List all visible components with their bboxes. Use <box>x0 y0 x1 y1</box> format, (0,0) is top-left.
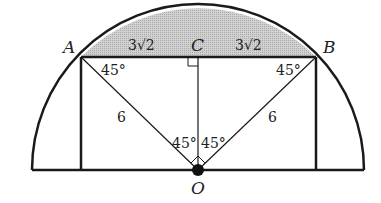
diagram-canvas: A B C O 3√2 3√2 6 6 45° 45° 45° 45° <box>0 0 381 203</box>
label-ac: 3√2 <box>128 37 155 53</box>
label-a: A <box>61 37 75 57</box>
radius-oa <box>81 57 198 170</box>
label-o: O <box>191 178 205 198</box>
angle-a: 45° <box>101 62 126 78</box>
label-b: B <box>322 37 336 57</box>
label-ob: 6 <box>268 109 277 125</box>
angle-aoc: 45° <box>172 135 197 151</box>
right-angle-c <box>188 57 198 66</box>
angle-boc: 45° <box>201 135 226 151</box>
label-c: C <box>191 35 204 55</box>
center-point-o <box>192 164 204 176</box>
label-oa: 6 <box>117 109 126 125</box>
semicircle-diagram: A B C O 3√2 3√2 6 6 45° 45° 45° 45° <box>0 0 381 203</box>
angle-b: 45° <box>276 62 301 78</box>
label-cb: 3√2 <box>235 37 262 53</box>
